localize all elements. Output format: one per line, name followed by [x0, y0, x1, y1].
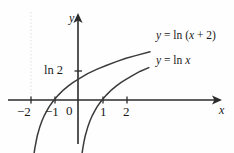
x-axis-label: x	[219, 104, 224, 116]
plot-canvas	[0, 0, 234, 153]
y-axis-label: y	[69, 12, 74, 24]
curve-label-ln-x-plus-2: y = ln (x + 2)	[156, 30, 216, 42]
tick-label-minus-2: −2	[17, 105, 31, 118]
curve-ln-x	[80, 68, 149, 153]
tick-label-minus-1: −1	[45, 105, 59, 118]
origin-label: 0	[66, 104, 73, 117]
curve-label-ln-x: y = ln x	[156, 55, 190, 67]
ln2-intercept-label: ln 2	[44, 64, 63, 77]
tick-label-1: 1	[100, 105, 107, 118]
logarithm-graph-figure: y x −2 −1 0 1 2 ln 2 y = ln (x + 2) y = …	[0, 0, 234, 153]
tick-label-2: 2	[123, 105, 130, 118]
